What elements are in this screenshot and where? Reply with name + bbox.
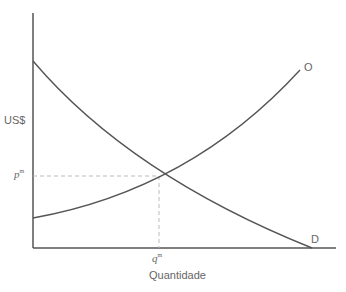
equilibrium-price-sup: m xyxy=(20,168,25,174)
x-axis-label: Quantidade xyxy=(149,270,206,281)
supply-curve xyxy=(33,70,300,218)
demand-curve-label: D xyxy=(311,234,319,245)
equilibrium-price-label: pm xyxy=(14,168,24,180)
y-axis-label: US$ xyxy=(4,115,25,126)
supply-curve-label: O xyxy=(304,62,313,73)
equilibrium-quantity-label: qm xyxy=(152,252,162,264)
demand-curve xyxy=(33,61,312,248)
equilibrium-quantity-sup: m xyxy=(158,252,163,258)
supply-demand-diagram xyxy=(0,0,346,292)
